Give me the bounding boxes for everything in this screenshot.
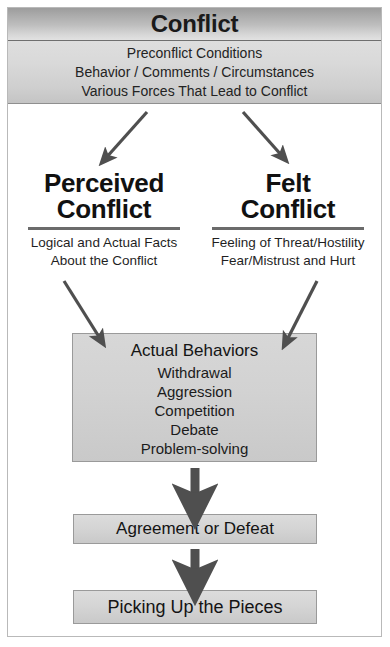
preconflict-line-1: Preconflict Conditions	[127, 44, 262, 63]
behavior-item-problem-solving: Problem-solving	[141, 439, 249, 458]
branch-heading-perceived-line2: Conflict	[57, 194, 151, 224]
outcome-label-agreement-or-defeat: Agreement or Defeat	[116, 518, 274, 540]
branch-desc-felt-line1: Feeling of Threat/Hostility	[200, 234, 376, 252]
branch-heading-felt: Felt Conflict	[200, 170, 376, 222]
diagram-title-band: Conflict	[8, 8, 381, 41]
actual-behaviors-heading: Actual Behaviors	[131, 340, 259, 362]
branch-desc-perceived-line2: About the Conflict	[16, 252, 192, 270]
actual-behaviors-box: Actual Behaviors Withdrawal Aggression C…	[72, 333, 317, 462]
preconflict-line-2: Behavior / Comments / Circumstances	[75, 63, 314, 82]
page-title: Conflict	[151, 12, 239, 36]
outcome-box-agreement-or-defeat: Agreement or Defeat	[73, 514, 317, 544]
behavior-item-competition: Competition	[154, 401, 234, 420]
branch-desc-perceived-line1: Logical and Actual Facts	[16, 234, 192, 252]
preconflict-conditions-band: Preconflict Conditions Behavior / Commen…	[8, 41, 381, 104]
branch-divider-felt	[212, 227, 364, 230]
outcome-label-picking-up-the-pieces: Picking Up the Pieces	[107, 596, 282, 618]
branch-desc-felt-line2: Fear/Mistrust and Hurt	[200, 252, 376, 270]
behavior-item-aggression: Aggression	[157, 382, 232, 401]
behavior-item-debate: Debate	[170, 420, 218, 439]
conflict-process-diagram: Conflict Preconflict Conditions Behavior…	[0, 0, 390, 647]
branch-felt-conflict: Felt Conflict Feeling of Threat/Hostilit…	[200, 170, 376, 270]
preconflict-line-3: Various Forces That Lead to Conflict	[82, 82, 308, 101]
branch-heading-felt-line2: Conflict	[241, 194, 335, 224]
branch-divider-perceived	[28, 227, 180, 230]
outcome-box-picking-up-the-pieces: Picking Up the Pieces	[73, 590, 317, 624]
behavior-item-withdrawal: Withdrawal	[157, 363, 231, 382]
branch-heading-perceived: Perceived Conflict	[16, 170, 192, 222]
branch-perceived-conflict: Perceived Conflict Logical and Actual Fa…	[16, 170, 192, 270]
